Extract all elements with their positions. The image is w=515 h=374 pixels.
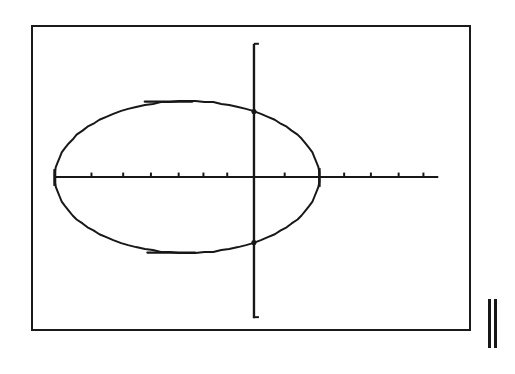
intersection-marker-lower [251,240,256,245]
y-axis [254,44,259,318]
pause-bar-right [494,299,497,348]
intersection-marker-upper [251,109,256,114]
pause-bar-left [488,299,491,348]
screenshot-root [0,0,515,374]
calculator-screen-frame[interactable] [31,25,471,331]
pause-bars-glyph[interactable] [487,299,499,348]
x-axis [55,173,438,177]
plot-canvas[interactable] [33,27,469,329]
